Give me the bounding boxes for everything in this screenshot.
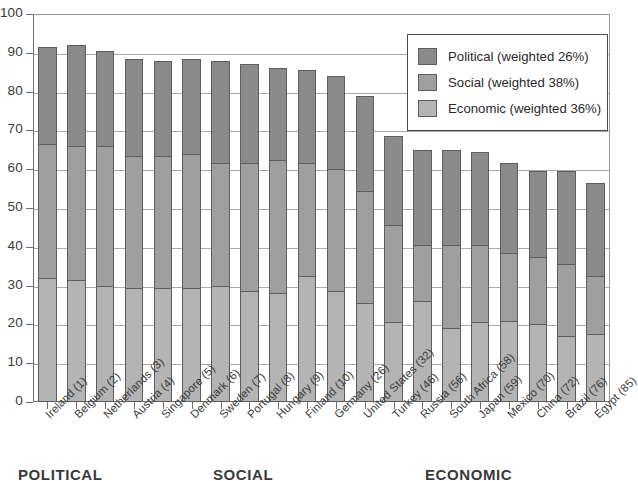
bar-stack[interactable]: [586, 183, 605, 402]
bar-segment-political[interactable]: [96, 51, 115, 146]
y-tick-label-20: 20: [8, 315, 23, 330]
section-caption: POLITICAL: [18, 466, 103, 481]
chart-legend: Political (weighted 26%) Social (weighte…: [407, 34, 608, 131]
y-tick-mark-10: [26, 363, 33, 364]
y-tick-label-50: 50: [8, 199, 23, 214]
bar-segment-political[interactable]: [38, 47, 57, 144]
bar-segment-political[interactable]: [557, 171, 576, 264]
bar-stack[interactable]: [557, 171, 576, 402]
bar-stack[interactable]: [125, 59, 144, 402]
bar-segment-social[interactable]: [67, 146, 86, 280]
legend-item-social: Social (weighted 38%): [418, 69, 597, 95]
bar-stack[interactable]: [38, 47, 57, 402]
y-tick-label-70: 70: [8, 121, 23, 136]
y-tick-mark-60: [26, 169, 33, 170]
bar-segment-political[interactable]: [154, 61, 173, 156]
bar-segment-social[interactable]: [442, 245, 461, 328]
y-tick-label-30: 30: [8, 277, 23, 292]
legend-label-economic: Economic (weighted 36%): [448, 101, 601, 116]
bar-segment-social[interactable]: [471, 245, 490, 323]
bar-segment-social[interactable]: [38, 144, 57, 278]
bar-segment-political[interactable]: [269, 68, 288, 159]
bar-segment-social[interactable]: [356, 191, 375, 304]
y-tick-mark-40: [26, 247, 33, 248]
bar-segment-social[interactable]: [500, 253, 519, 321]
bar-segment-social[interactable]: [269, 160, 288, 294]
bar-stack[interactable]: [471, 152, 490, 402]
bar-stack[interactable]: [240, 64, 259, 402]
bar-segment-political[interactable]: [356, 96, 375, 191]
legend-label-political: Political (weighted 26%): [448, 49, 589, 64]
bar-segment-political[interactable]: [327, 76, 346, 169]
legend-swatch-political: [418, 48, 437, 65]
bar-segment-political[interactable]: [298, 70, 317, 163]
bar-segment-social[interactable]: [182, 154, 201, 288]
bar-segment-political[interactable]: [442, 150, 461, 245]
bar-segment-social[interactable]: [298, 163, 317, 276]
y-tick-label-90: 90: [8, 44, 23, 59]
bar-segment-political[interactable]: [182, 59, 201, 154]
bar-segment-social[interactable]: [327, 169, 346, 291]
y-tick-mark-30: [26, 286, 33, 287]
bar-stack[interactable]: [442, 150, 461, 402]
y-tick-label-40: 40: [8, 238, 23, 253]
legend-label-social: Social (weighted 38%): [448, 75, 579, 90]
bar-segment-social[interactable]: [384, 225, 403, 322]
legend-swatch-social: [418, 74, 437, 91]
bar-segment-political[interactable]: [413, 150, 432, 245]
bar-stack[interactable]: [67, 45, 86, 402]
y-tick-label-100: 100: [0, 5, 23, 20]
bar-segment-social[interactable]: [413, 245, 432, 301]
bar-stack[interactable]: [211, 61, 230, 402]
bar-segment-social[interactable]: [557, 264, 576, 336]
section-caption: SOCIAL: [213, 466, 273, 481]
legend-item-political: Political (weighted 26%): [418, 43, 597, 69]
legend-item-economic: Economic (weighted 36%): [418, 95, 597, 121]
y-tick-mark-80: [26, 92, 33, 93]
bar-segment-social[interactable]: [586, 276, 605, 334]
y-tick-mark-100: [26, 14, 33, 15]
bar-segment-social[interactable]: [529, 257, 548, 325]
bar-stack[interactable]: [298, 70, 317, 402]
bar-segment-political[interactable]: [67, 45, 86, 146]
y-tick-label-0: 0: [15, 393, 23, 408]
bar-stack[interactable]: [356, 96, 375, 403]
y-tick-label-80: 80: [8, 83, 23, 98]
bar-segment-economic[interactable]: [38, 278, 57, 402]
legend-swatch-economic: [418, 100, 437, 117]
bar-stack[interactable]: [529, 171, 548, 402]
y-tick-mark-70: [26, 130, 33, 131]
y-tick-mark-0: [26, 402, 33, 403]
y-tick-mark-20: [26, 324, 33, 325]
bar-stack[interactable]: [96, 51, 115, 402]
bar-stack[interactable]: [384, 136, 403, 402]
bar-segment-political[interactable]: [240, 64, 259, 163]
bar-segment-political[interactable]: [125, 59, 144, 156]
bar-stack[interactable]: [269, 68, 288, 402]
bar-segment-political[interactable]: [529, 171, 548, 256]
bar-segment-political[interactable]: [586, 183, 605, 276]
bar-segment-social[interactable]: [211, 163, 230, 285]
bar-segment-political[interactable]: [211, 61, 230, 164]
bar-segment-social[interactable]: [154, 156, 173, 288]
bar-segment-social[interactable]: [125, 156, 144, 288]
y-tick-label-10: 10: [8, 354, 23, 369]
bar-segment-political[interactable]: [384, 136, 403, 225]
y-tick-mark-90: [26, 53, 33, 54]
bar-stack[interactable]: [182, 59, 201, 402]
bar-segment-social[interactable]: [96, 146, 115, 286]
bar-stack[interactable]: [327, 76, 346, 402]
bar-segment-political[interactable]: [471, 152, 490, 245]
y-tick-mark-50: [26, 208, 33, 209]
bar-segment-social[interactable]: [240, 163, 259, 291]
bar-segment-political[interactable]: [500, 163, 519, 252]
y-tick-label-60: 60: [8, 160, 23, 175]
bar-stack[interactable]: [154, 61, 173, 402]
section-caption: ECONOMIC: [425, 466, 512, 481]
